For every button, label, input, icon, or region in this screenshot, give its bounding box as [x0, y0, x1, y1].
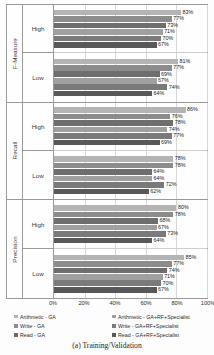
- bars-block: 86%76%78%74%77%69%: [54, 103, 207, 151]
- bar-value-label: 85%: [186, 254, 197, 261]
- legend-swatch-icon: [14, 315, 18, 319]
- metric-group-f-measure: F-Measure: [7, 5, 22, 103]
- legend-label: Write - GA+RF+Specialist: [118, 323, 179, 329]
- x-axis-tick: 40%: [109, 300, 120, 306]
- legend-item[interactable]: Read - GA+RF+Specialist: [112, 330, 210, 339]
- legend-swatch-icon: [112, 324, 116, 328]
- legend-item[interactable]: Write - GA+RF+Specialist: [112, 321, 210, 330]
- bars-group-f-measure: 83%77%73%71%70%67%81%77%69%67%74%64%: [54, 5, 207, 103]
- bar-value-label: 86%: [187, 106, 198, 113]
- metric-label: F-Measure: [7, 5, 22, 102]
- bar-row: 78%: [54, 163, 207, 169]
- metric-label-text: F-Measure: [11, 38, 18, 69]
- bar-row: 64%: [54, 238, 207, 244]
- bar-value-label: 78%: [175, 162, 186, 169]
- bar-row: 71%: [54, 29, 207, 35]
- level-label-cell: Low: [23, 151, 53, 199]
- legend-item[interactable]: Arithmetic - GA+RF+Specialist: [112, 312, 210, 321]
- legend-swatch-icon: [112, 315, 116, 319]
- bar-row: 67%: [54, 225, 207, 231]
- legend-item[interactable]: Arithmetic - GA: [14, 312, 112, 321]
- figure-caption: (a) Training/Validation: [0, 341, 214, 350]
- level-label-cell: High: [23, 200, 53, 249]
- bar: [54, 231, 166, 237]
- bar-row: 62%: [54, 189, 207, 195]
- legend-item[interactable]: Write - GA: [14, 321, 112, 330]
- level-label-text: High: [32, 25, 45, 32]
- bar: [54, 59, 178, 65]
- bar: [54, 255, 184, 261]
- level-label-cell: High: [23, 103, 53, 151]
- legend-column-left: Arithmetic - GAWrite - GARead - GA: [14, 312, 112, 342]
- bar: [54, 16, 172, 22]
- legend-swatch-icon: [112, 333, 116, 337]
- level-label-text: High: [32, 123, 45, 130]
- bar-row: 67%: [54, 78, 207, 84]
- metric-label: Precision: [7, 200, 22, 298]
- legend-label: Read - GA: [20, 332, 45, 338]
- bar-row: 74%: [54, 84, 207, 90]
- legend-label: Read - GA+RF+Specialist: [118, 332, 179, 338]
- bar-value-label: 73%: [167, 230, 178, 237]
- bar: [54, 65, 172, 71]
- bar-row: 67%: [54, 287, 207, 293]
- metric-label-text: Precision: [11, 236, 18, 262]
- bar-value-label: 67%: [158, 286, 169, 293]
- bar-value-label: 67%: [158, 41, 169, 48]
- bar: [54, 140, 160, 146]
- bar: [54, 42, 157, 48]
- legend-label: Write - GA: [20, 323, 45, 329]
- bar: [54, 268, 167, 274]
- level-group-f-measure: HighLow: [23, 5, 53, 103]
- bar-row: 69%: [54, 71, 207, 77]
- bar-value-label: 62%: [150, 188, 161, 195]
- bar: [54, 189, 149, 195]
- legend-column-right: Arithmetic - GA+RF+SpecialistWrite - GA+…: [112, 312, 210, 342]
- level-label-cell: Low: [23, 53, 53, 101]
- bar-row: 74%: [54, 268, 207, 274]
- bar: [54, 10, 181, 16]
- bar-value-label: 77%: [173, 64, 184, 71]
- bar-row: 69%: [54, 140, 207, 146]
- legend-label: Arithmetic - GA: [20, 314, 56, 320]
- bars-block: 85%77%74%71%70%67%: [54, 249, 207, 298]
- bar: [54, 29, 163, 35]
- bar-value-label: 78%: [175, 211, 186, 218]
- bars-group-precision: 80%78%68%67%73%64%85%77%74%71%70%67%: [54, 200, 207, 298]
- bars-block: 81%77%69%67%74%64%: [54, 53, 207, 101]
- bar: [54, 176, 152, 182]
- x-axis: 0%20%40%60%80%100%: [53, 300, 208, 310]
- legend-item[interactable]: Read - GA: [14, 330, 112, 339]
- bar-value-label: 74%: [169, 84, 180, 91]
- chart-figure: F-MeasureRecallPrecision HighLowHighLowH…: [0, 0, 214, 355]
- legend-swatch-icon: [14, 324, 18, 328]
- bar-row: 77%: [54, 261, 207, 267]
- bar: [54, 218, 158, 224]
- x-axis-tick: 60%: [140, 300, 151, 306]
- bar-row: 68%: [54, 218, 207, 224]
- level-label-cell: High: [23, 5, 53, 53]
- bar: [54, 84, 167, 90]
- bar-row: 64%: [54, 176, 207, 182]
- x-axis-tick: 100%: [201, 300, 214, 306]
- level-group-recall: HighLow: [23, 103, 53, 201]
- bar: [54, 205, 176, 211]
- bar: [54, 156, 173, 162]
- bar-row: 77%: [54, 16, 207, 22]
- bar-row: 86%: [54, 107, 207, 113]
- metric-group-precision: Precision: [7, 200, 22, 298]
- bar-value-label: 83%: [182, 9, 193, 16]
- bar: [54, 127, 167, 133]
- x-axis-tick: 20%: [78, 300, 89, 306]
- plot-area: F-MeasureRecallPrecision HighLowHighLowH…: [6, 4, 208, 299]
- bar-row: 64%: [54, 91, 207, 97]
- bar: [54, 274, 163, 280]
- bar-row: 77%: [54, 65, 207, 71]
- legend-label: Arithmetic - GA+RF+Specialist: [118, 314, 190, 320]
- metric-label-column: F-MeasureRecallPrecision: [7, 5, 23, 298]
- bar-row: 70%: [54, 280, 207, 286]
- bar-row: 73%: [54, 231, 207, 237]
- bar: [54, 114, 170, 120]
- x-axis-tick: 0%: [49, 300, 57, 306]
- bars-group-recall: 86%76%78%74%77%69%78%78%64%64%72%62%: [54, 103, 207, 201]
